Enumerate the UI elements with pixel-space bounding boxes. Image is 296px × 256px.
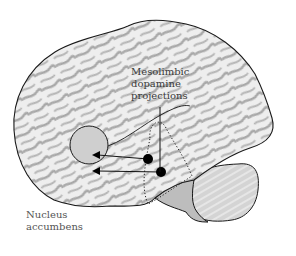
figure-title-cutoff: [90, 0, 210, 3]
mesolimbic-label: Mesolimbic dopamine projections: [131, 66, 189, 102]
dopamine-source-2: [156, 167, 166, 177]
nucleus-accumbens-region: [70, 126, 108, 164]
dopamine-source-1: [143, 154, 153, 164]
nucleus-accumbens-label: Nucleus accumbens: [26, 209, 83, 233]
brain-diagram: Mesolimbic dopamine projections Nucleus …: [0, 0, 296, 256]
